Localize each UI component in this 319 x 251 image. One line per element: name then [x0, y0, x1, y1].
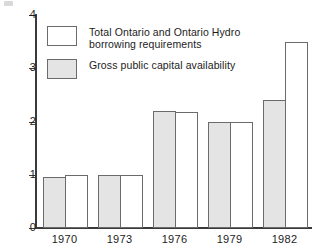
y-tick-label: 1 — [14, 169, 36, 180]
y-tick-label-wrap: 2 — [0, 116, 36, 127]
y-tick-label-wrap: 1 — [0, 169, 36, 180]
bar-borrow-1979 — [230, 122, 253, 229]
legend-label-gross: Gross public capital availability — [89, 59, 235, 72]
x-tick-label-1982: 1982 — [259, 233, 311, 245]
x-tick-label-1973: 1973 — [94, 233, 146, 245]
bar-gross-1973 — [98, 175, 121, 228]
y-tick-label: 0 — [14, 222, 36, 233]
y-tick-label-wrap: 0 — [0, 222, 36, 233]
y-tick-label-wrap: 4 — [0, 9, 36, 20]
legend-swatch-white-icon — [47, 26, 77, 46]
bar-borrow-1982 — [285, 42, 308, 228]
legend-item-gross: Gross public capital availability — [47, 59, 297, 79]
legend-swatch-shaded-icon — [47, 59, 77, 79]
bar-gross-1970 — [43, 177, 66, 228]
y-tick-label: 3 — [14, 62, 36, 73]
y-tick-label: 4 — [14, 9, 36, 20]
bar-chart: 01234 19701973197619791982 Total Ontario… — [0, 0, 319, 251]
bar-borrow-1970 — [65, 175, 88, 228]
legend-item-borrowing: Total Ontario and Ontario Hydro borrowin… — [47, 26, 297, 50]
bar-gross-1979 — [208, 122, 231, 229]
y-tick-label-wrap: 3 — [0, 62, 36, 73]
bar-borrow-1973 — [120, 175, 143, 228]
x-tick-label-1979: 1979 — [204, 233, 256, 245]
bar-gross-1982 — [263, 100, 286, 228]
x-tick-label-1976: 1976 — [149, 233, 201, 245]
x-tick-label-1970: 1970 — [39, 233, 91, 245]
bar-gross-1976 — [153, 111, 176, 228]
y-tick-label: 2 — [14, 116, 36, 127]
bar-borrow-1976 — [175, 112, 198, 228]
legend-label-borrowing: Total Ontario and Ontario Hydro borrowin… — [89, 26, 240, 50]
chart-legend: Total Ontario and Ontario Hydro borrowin… — [47, 26, 297, 88]
